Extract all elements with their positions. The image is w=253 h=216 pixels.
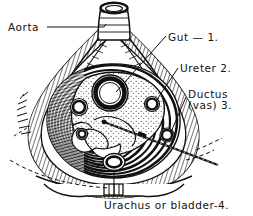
label-ureter: Ureter 2. (180, 62, 231, 74)
label-urachus-bladder: Urachus or bladder-4. (104, 199, 229, 211)
label-ductus-line2: (vas) 3. (188, 99, 232, 111)
accessory-ring-lower-left (76, 128, 87, 139)
gut-ring (92, 75, 128, 111)
label-gut: Gut — 1. (168, 31, 219, 43)
accessory-ring-upper-left (71, 99, 88, 116)
anatomical-figure: Aorta Gut — 1. Ureter 2. Ductus (vas) 3.… (0, 0, 253, 216)
label-aorta: Aorta (8, 21, 39, 33)
urachus-ring (103, 154, 125, 171)
